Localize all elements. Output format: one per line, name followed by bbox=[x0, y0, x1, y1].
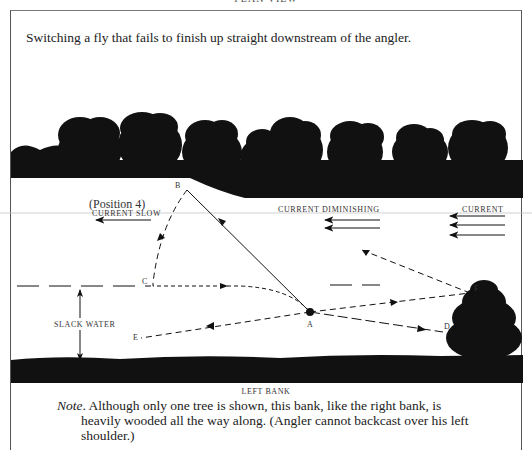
note-line-2: heavily wooded all the way along. (Angle… bbox=[57, 413, 477, 428]
current-diminishing-label: CURRENT DIMINISHING bbox=[278, 205, 380, 214]
point-a-label: A bbox=[307, 320, 313, 329]
current-arrows bbox=[96, 216, 505, 235]
left-bank-label: LEFT BANK bbox=[0, 387, 532, 396]
angler-dot bbox=[306, 308, 314, 316]
figure-note: Note. Although only one tree is shown, t… bbox=[57, 398, 477, 443]
point-d-label: D bbox=[444, 322, 450, 331]
slack-water-label: SLACK WATER bbox=[52, 320, 117, 329]
path-b-to-c bbox=[153, 190, 187, 283]
point-e-label: E bbox=[133, 333, 138, 342]
current-label: CURRENT bbox=[462, 205, 504, 214]
slack-water-boundary bbox=[17, 285, 380, 286]
right-bank-trees bbox=[11, 112, 523, 198]
point-c-label: C bbox=[142, 277, 147, 286]
note-prefix: Note bbox=[57, 398, 83, 413]
note-line-1: . Although only one tree is shown, this … bbox=[83, 398, 442, 413]
current-slow-label: CURRENT SLOW bbox=[92, 209, 161, 218]
path-c-to-a bbox=[153, 283, 310, 312]
left-bank-tree bbox=[446, 280, 522, 360]
note-line-3: shoulder.) bbox=[57, 428, 477, 443]
left-bank bbox=[11, 355, 523, 383]
path-a-to-e bbox=[141, 312, 310, 338]
path-a-to-f bbox=[310, 293, 470, 312]
path-f-to-upper bbox=[362, 250, 470, 293]
point-b-label: B bbox=[175, 181, 180, 190]
point-f-label: F bbox=[474, 284, 478, 293]
